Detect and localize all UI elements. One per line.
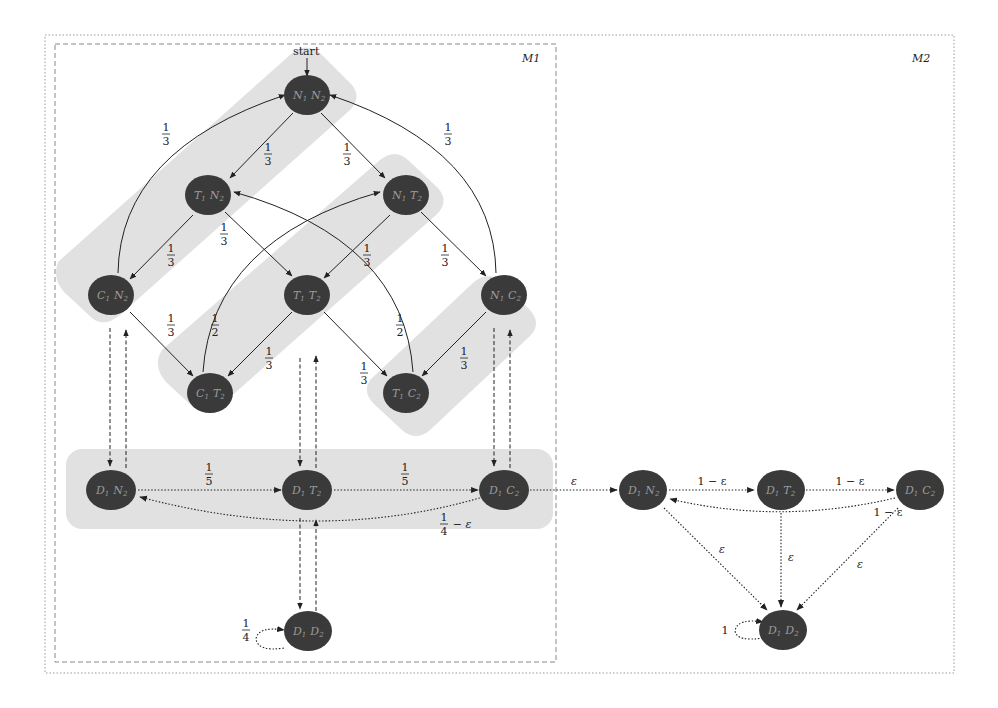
- label-m2-d-self: 1: [722, 624, 729, 637]
- svg-text:3: 3: [364, 256, 371, 269]
- node-c1t2: C1T2: [187, 373, 233, 413]
- svg-text:1: 1: [402, 461, 409, 474]
- edge-m2-c-d: [797, 508, 898, 610]
- svg-text:4: 4: [441, 525, 448, 538]
- start-label: start: [293, 45, 320, 58]
- label-d1c2-m2d1n2: ε: [571, 475, 577, 488]
- svg-text:1: 1: [168, 312, 175, 325]
- svg-text:3: 3: [344, 155, 351, 168]
- svg-text:5: 5: [206, 475, 213, 488]
- label-t1n2-c1n2: 1 3: [167, 242, 175, 269]
- node-n1t2: N1T2: [383, 175, 429, 215]
- m2-label: M2: [911, 52, 930, 65]
- label-n1c2-n1n2: 1 3: [444, 121, 452, 148]
- node-n1n2: N1N2: [284, 75, 330, 115]
- label-d1t2-d1c2: 1 5: [401, 461, 409, 488]
- node-t1t2: T1T2: [284, 275, 330, 315]
- markov-chain-diagram: M2 M1 start: [0, 0, 998, 708]
- svg-text:2: 2: [212, 326, 219, 339]
- svg-text:3: 3: [461, 359, 468, 372]
- label-c1t2-n1t2: 1 2: [211, 312, 219, 339]
- label-m2-c-d: ε: [857, 558, 863, 571]
- svg-text:3: 3: [265, 155, 272, 168]
- node-d1t2: D1T2: [282, 470, 332, 510]
- svg-text:1: 1: [221, 221, 228, 234]
- node-d1c2: D1C2: [479, 470, 529, 510]
- svg-text:3: 3: [221, 235, 228, 248]
- svg-text:1: 1: [168, 242, 175, 255]
- svg-text:3: 3: [445, 135, 452, 148]
- svg-text:3: 3: [163, 135, 170, 148]
- svg-text:1: 1: [163, 121, 170, 134]
- label-c1n2-n1n2: 1 3: [162, 121, 170, 148]
- svg-text:− ε: − ε: [453, 518, 472, 531]
- label-m2-n-d: ε: [719, 543, 725, 556]
- node-m2-d1n2: D1N2: [619, 470, 667, 510]
- node-n1c2: N1C2: [481, 275, 527, 315]
- node-d1n2: D1N2: [86, 470, 136, 510]
- edge-d1d2-self: [256, 629, 284, 649]
- svg-text:2: 2: [397, 326, 404, 339]
- svg-text:1: 1: [344, 141, 351, 154]
- m1-label: M1: [521, 52, 540, 65]
- svg-text:3: 3: [361, 374, 368, 387]
- edge-m2-d-self: [735, 621, 763, 639]
- svg-text:3: 3: [168, 326, 175, 339]
- edge-m2-n-d: [664, 508, 767, 610]
- node-t1n2: T1N2: [185, 175, 231, 215]
- svg-text:1: 1: [364, 242, 371, 255]
- svg-text:3: 3: [168, 256, 175, 269]
- label-d1n2-d1t2: 1 5: [205, 461, 213, 488]
- label-t1t2-t1c2: 1 3: [360, 360, 368, 387]
- label-t1c2-t1n2: 1 2: [396, 312, 404, 339]
- svg-text:1: 1: [442, 242, 449, 255]
- node-m2-d1c2: D1C2: [896, 470, 944, 510]
- label-n1n2-t1n2: 1 3: [264, 141, 272, 168]
- svg-text:1: 1: [397, 312, 404, 325]
- node-t1c2: T1C2: [383, 373, 429, 413]
- svg-text:1: 1: [212, 312, 219, 325]
- svg-text:1: 1: [206, 461, 213, 474]
- label-n1t2-t1t2: 1 3: [363, 242, 371, 269]
- svg-text:1: 1: [361, 360, 368, 373]
- node-d1d2: D1D2: [284, 611, 332, 651]
- node-m2-d1t2: D1T2: [757, 470, 805, 510]
- svg-text:1: 1: [461, 345, 468, 358]
- svg-text:1: 1: [266, 345, 273, 358]
- node-c1n2: C1N2: [88, 275, 134, 315]
- label-m2-n-t: 1 − ε: [698, 475, 727, 488]
- m2-edge-labels: ε 1 − ε 1 − ε 1 − ε ε ε ε 1: [571, 475, 903, 637]
- label-t1t2-c1t2: 1 3: [265, 345, 273, 372]
- edge-t1t2-t1c2: [324, 312, 387, 376]
- node-m2-d1d2: D1D2: [759, 610, 807, 650]
- svg-text:3: 3: [442, 256, 449, 269]
- label-c1n2-c1t2: 1 3: [167, 312, 175, 339]
- edge-n1n2-n1t2: [321, 113, 385, 178]
- label-t1n2-t1t2: 1 3: [220, 221, 228, 248]
- label-m2-c-n: 1 − ε: [874, 506, 903, 519]
- svg-text:1: 1: [445, 121, 452, 134]
- label-m2-t-c: 1 − ε: [836, 475, 865, 488]
- label-d1d2-self: 1 4: [242, 617, 250, 644]
- label-n1c2-t1c2: 1 3: [460, 345, 468, 372]
- svg-text:5: 5: [402, 475, 409, 488]
- edge-n1t2-n1c2: [421, 212, 486, 276]
- label-m2-t-d: ε: [788, 551, 794, 564]
- svg-text:1: 1: [265, 141, 272, 154]
- svg-text:1: 1: [243, 617, 250, 630]
- svg-text:1: 1: [441, 511, 448, 524]
- label-n1t2-n1c2: 1 3: [441, 242, 449, 269]
- svg-text:4: 4: [243, 631, 250, 644]
- label-n1n2-n1t2: 1 3: [343, 141, 351, 168]
- svg-text:3: 3: [266, 359, 273, 372]
